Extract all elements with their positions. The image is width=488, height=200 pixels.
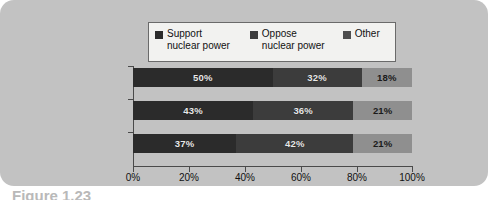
y-axis-tick xyxy=(128,132,133,133)
y-axis-tick xyxy=(128,66,133,67)
bar-value-april-oppose: 32% xyxy=(307,72,327,83)
bar-value-may-other: 21% xyxy=(373,105,393,116)
bar-value-may-support: 43% xyxy=(183,105,203,116)
bar-segment-may-other: 21% xyxy=(353,101,412,120)
legend-label-oppose: Oppose nuclear power xyxy=(262,28,325,51)
bar-row-june: 37% 42% 21% xyxy=(133,134,412,153)
x-axis-label-100: 100% xyxy=(392,172,432,183)
bar-segment-may-support: 43% xyxy=(133,101,253,120)
bar-segment-june-support: 37% xyxy=(133,134,236,153)
x-axis-line xyxy=(133,166,413,167)
figure-panel: Support nuclear power Oppose nuclear pow… xyxy=(0,0,488,186)
bar-segment-june-oppose: 42% xyxy=(236,134,353,153)
bar-value-june-oppose: 42% xyxy=(285,138,305,149)
bar-segment-april-support: 50% xyxy=(133,68,273,87)
bar-row-may: 43% 36% 21% xyxy=(133,101,412,120)
legend-entry-support: Support nuclear power xyxy=(155,28,250,51)
bar-row-april: 50% 32% 18% xyxy=(133,68,412,87)
bar-value-april-support: 50% xyxy=(193,72,213,83)
chart-legend: Support nuclear power Oppose nuclear pow… xyxy=(148,22,396,62)
x-axis-label-0: 0% xyxy=(113,172,153,183)
bar-segment-may-oppose: 36% xyxy=(253,101,353,120)
legend-entry-oppose: Oppose nuclear power xyxy=(250,28,343,51)
x-axis-label-40: 40% xyxy=(225,172,265,183)
bar-segment-april-other: 18% xyxy=(362,68,412,87)
bar-value-april-other: 18% xyxy=(377,72,397,83)
bar-segment-june-other: 21% xyxy=(353,134,412,153)
bar-value-may-oppose: 36% xyxy=(293,105,313,116)
x-axis-label-80: 80% xyxy=(337,172,377,183)
x-axis-label-20: 20% xyxy=(169,172,209,183)
legend-swatch-other xyxy=(343,31,351,39)
legend-swatch-support xyxy=(155,31,163,39)
legend-swatch-oppose xyxy=(250,31,258,39)
legend-label-other: Other xyxy=(355,28,380,40)
bar-value-june-other: 21% xyxy=(373,138,393,149)
figure-caption-text: Figure 1.23 xyxy=(12,187,91,200)
figure-caption-clipped: Figure 1.23 xyxy=(0,186,488,200)
bar-value-june-support: 37% xyxy=(175,138,195,149)
bar-segment-april-oppose: 32% xyxy=(273,68,362,87)
legend-entry-other: Other xyxy=(343,28,395,40)
y-axis-tick xyxy=(128,99,133,100)
legend-label-support: Support nuclear power xyxy=(167,28,230,51)
x-axis-label-60: 60% xyxy=(281,172,321,183)
